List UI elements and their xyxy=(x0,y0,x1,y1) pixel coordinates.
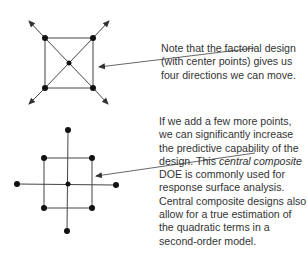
corner-point xyxy=(41,205,47,211)
direction-arrow-icon xyxy=(93,88,108,104)
corner-point xyxy=(41,155,47,161)
center-point xyxy=(67,61,72,66)
note-italic-term: central composite xyxy=(219,155,302,167)
corner-point xyxy=(42,35,48,41)
corner-point xyxy=(89,155,95,161)
axial-point xyxy=(64,228,70,234)
direction-arrow-icon xyxy=(29,88,45,104)
factorial-design-diagram xyxy=(29,21,109,104)
axial-point xyxy=(65,127,71,133)
corner-point xyxy=(90,35,96,41)
axial-point xyxy=(113,182,119,188)
corner-point xyxy=(89,205,95,211)
axial-point xyxy=(14,181,20,187)
corner-point xyxy=(90,85,96,91)
vertical-axis-line xyxy=(67,130,68,231)
center-point xyxy=(66,182,71,187)
note-text: DOE is commonly used for response surfac… xyxy=(159,168,306,246)
corner-point xyxy=(42,85,48,91)
direction-arrow-icon xyxy=(93,21,109,38)
central-composite-note: If we add a few more points, we can sign… xyxy=(159,115,307,248)
central-composite-diagram xyxy=(14,127,119,234)
direction-arrow-icon xyxy=(29,21,45,38)
factorial-note: Note that the factorial design (with cen… xyxy=(161,42,307,82)
